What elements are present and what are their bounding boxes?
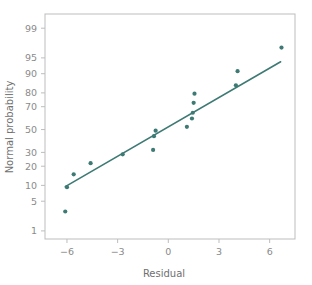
data-point — [63, 209, 67, 213]
y-tick-label: 95 — [25, 52, 37, 63]
x-tick-label: 6 — [267, 246, 273, 257]
y-tick-label: 20 — [25, 161, 37, 172]
data-point — [154, 129, 158, 133]
chart-canvas: −6−3036 15102030507080909599 Residual No… — [0, 0, 312, 285]
data-point — [89, 161, 93, 165]
data-point — [121, 152, 125, 156]
y-tick-label: 99 — [25, 23, 37, 34]
y-tick-label: 30 — [25, 147, 37, 158]
data-point — [185, 125, 189, 129]
data-point — [152, 134, 156, 138]
x-tick-label: −3 — [111, 246, 125, 257]
y-tick-label: 5 — [31, 196, 37, 207]
x-axis-title: Residual — [143, 268, 185, 279]
x-tick-label: 3 — [216, 246, 222, 257]
data-point — [72, 172, 76, 176]
y-tick-label: 10 — [25, 180, 37, 191]
data-point — [151, 148, 155, 152]
y-tick-label: 70 — [25, 101, 37, 112]
x-tick-label: 0 — [165, 246, 171, 257]
data-point — [279, 46, 283, 50]
data-point — [192, 101, 196, 105]
y-tick-label: 1 — [31, 225, 37, 236]
data-point — [192, 92, 196, 96]
chart-background — [0, 0, 312, 285]
data-point — [191, 111, 195, 115]
data-point — [65, 185, 69, 189]
y-tick-label: 50 — [25, 124, 37, 135]
data-point — [235, 69, 239, 73]
y-tick-label: 90 — [25, 68, 37, 79]
y-tick-label: 80 — [25, 87, 37, 98]
x-tick-label: −6 — [60, 246, 74, 257]
y-axis-title: Normal probability — [4, 81, 15, 174]
normal-probability-plot: −6−3036 15102030507080909599 Residual No… — [0, 0, 312, 285]
data-point — [234, 83, 238, 87]
data-point — [190, 116, 194, 120]
